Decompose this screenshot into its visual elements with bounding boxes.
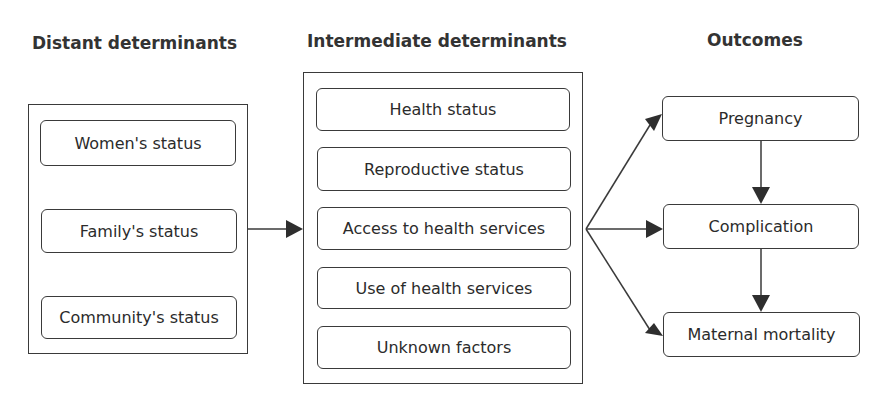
connector-arrows [0,0,888,403]
arrow-to-pregnancy [586,125,650,229]
arrow-to-maternal-mortality [586,229,650,330]
